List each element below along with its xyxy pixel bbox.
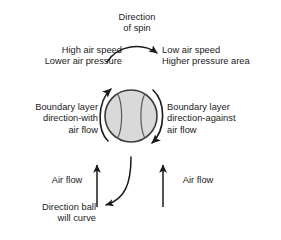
boundary-layer-with-label: Boundary layer direction-with air flow — [8, 102, 98, 136]
magnus-effect-diagram: Direction of spin High air speed Lower a… — [0, 0, 281, 240]
spin-direction-label: Direction of spin — [101, 12, 173, 35]
low-air-speed-label: Low air speed Higher pressure area — [162, 45, 278, 68]
airflow-left-label: Air flow — [41, 175, 93, 186]
ball-curve-label: Direction ball will curve — [20, 202, 96, 225]
ball-curve-arrow — [106, 157, 131, 205]
ball-body — [105, 90, 157, 142]
airflow-right-label: Air flow — [172, 175, 224, 186]
boundary-layer-against-label: Boundary layer direction-against air flo… — [167, 102, 265, 136]
high-air-speed-label: High air speed Lower air pressure — [16, 45, 122, 68]
